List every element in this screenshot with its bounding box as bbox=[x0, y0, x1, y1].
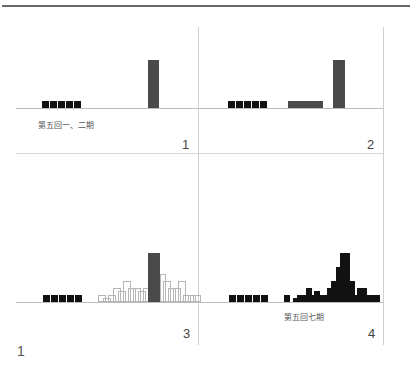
panel-2-number: 2 bbox=[367, 137, 374, 152]
reference-square bbox=[74, 101, 81, 108]
reference-square bbox=[236, 101, 243, 108]
panel-3: 3 bbox=[16, 154, 198, 345]
reference-square bbox=[42, 101, 49, 108]
reference-square bbox=[244, 101, 251, 108]
reference-square bbox=[66, 101, 73, 108]
reference-square bbox=[245, 295, 252, 302]
panel-2-baseline bbox=[199, 108, 383, 109]
reference-square bbox=[237, 295, 244, 302]
right-border bbox=[383, 27, 384, 345]
reference-square bbox=[261, 295, 268, 302]
stacked-column bbox=[374, 295, 380, 302]
panel-2-wide-bar bbox=[288, 101, 323, 108]
reference-square bbox=[252, 101, 259, 108]
reference-square bbox=[253, 295, 260, 302]
panel-1: 第五回一、二期 1 bbox=[16, 27, 198, 153]
panel-3-number: 3 bbox=[183, 326, 190, 341]
reference-square bbox=[43, 295, 50, 302]
stacked-column bbox=[284, 295, 290, 302]
panel-1-number: 1 bbox=[182, 137, 189, 152]
panel-1-caption: 第五回一、二期 bbox=[38, 119, 94, 130]
panel-4-baseline bbox=[199, 302, 383, 303]
panel-2-tall-bar bbox=[333, 60, 345, 108]
reference-square bbox=[260, 101, 267, 108]
reference-square bbox=[75, 295, 82, 302]
reference-square bbox=[58, 101, 65, 108]
panel-1-tall-bar bbox=[148, 60, 159, 108]
panel-4-caption: 第五回七期 bbox=[284, 311, 324, 322]
panel-2: 2 bbox=[199, 27, 383, 153]
reference-square bbox=[228, 101, 235, 108]
reference-square bbox=[229, 295, 236, 302]
top-rule bbox=[2, 5, 410, 7]
reference-square bbox=[51, 295, 58, 302]
panel-4: 第五回七期 4 bbox=[199, 154, 383, 345]
figure-number: 1 bbox=[17, 343, 25, 359]
panel-1-baseline bbox=[16, 108, 198, 109]
reference-square bbox=[59, 295, 66, 302]
reference-square bbox=[50, 101, 57, 108]
panel-4-number: 4 bbox=[368, 326, 375, 341]
panel-3-tall-bar bbox=[148, 253, 160, 302]
panel-3-baseline bbox=[16, 302, 198, 303]
reference-square bbox=[67, 295, 74, 302]
